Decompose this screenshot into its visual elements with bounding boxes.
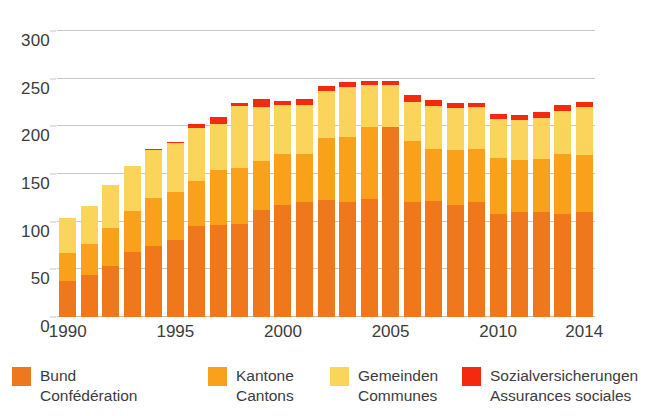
bar-segment-kantone [576, 155, 593, 212]
bar-segment-gemeinden [576, 107, 593, 155]
bar-segment-bund [339, 202, 356, 317]
bar-segment-bund [490, 214, 507, 317]
bar-2006 [404, 95, 421, 317]
y-tick-mark-150 [50, 174, 56, 175]
bar-segment-gemeinden [231, 106, 248, 168]
legend-item-bund[interactable]: BundConfédération [12, 366, 137, 406]
bar-segment-kantone [468, 149, 485, 201]
bar-segment-bund [102, 266, 119, 317]
bar-segment-sozialversicherungen [296, 99, 313, 106]
bar-segment-bund [188, 226, 205, 317]
bar-1991 [81, 206, 98, 317]
bar-segment-kantone [533, 159, 550, 212]
bar-2004 [361, 81, 378, 317]
legend-label-fr: Confédération [40, 386, 137, 406]
bar-segment-bund [554, 214, 571, 317]
bar-segment-bund [274, 205, 291, 317]
legend-swatch-icon [12, 367, 31, 386]
bar-2003 [339, 82, 356, 317]
legend-label-de: Gemeinden [358, 366, 438, 386]
bar-1994 [145, 149, 162, 317]
bar-1990 [59, 218, 76, 317]
legend-label-de: Sozialversicherungen [490, 366, 638, 386]
bar-segment-kantone [554, 154, 571, 214]
bar-segment-kantone [318, 138, 335, 200]
bar-segment-gemeinden [102, 185, 119, 228]
bar-segment-sozialversicherungen [404, 95, 421, 102]
bar-1999 [253, 99, 270, 317]
bar-segment-gemeinden [447, 108, 464, 150]
x-tick-label-2000: 2000 [264, 322, 302, 342]
bar-2009 [468, 103, 485, 317]
legend-label-de: Kantone [236, 366, 294, 386]
y-tick-mark-0 [50, 317, 56, 318]
bar-segment-gemeinden [296, 105, 313, 154]
bar-segment-gemeinden [253, 107, 270, 160]
bar-segment-bund [576, 212, 593, 317]
bar-segment-kantone [124, 211, 141, 252]
bar-segment-sozialversicherungen [425, 100, 442, 107]
bar-2013 [554, 105, 571, 317]
legend-label: KantoneCantons [236, 366, 294, 406]
bar-2012 [533, 112, 550, 317]
bars-container [57, 31, 595, 317]
legend-item-kantone[interactable]: KantoneCantons [208, 366, 294, 406]
bar-segment-gemeinden [339, 87, 356, 137]
bar-2008 [447, 103, 464, 317]
y-axis: 050100150200250300 [0, 31, 50, 317]
bar-2011 [511, 115, 528, 317]
bar-segment-kantone [188, 181, 205, 227]
bar-segment-kantone [231, 168, 248, 223]
bar-1997 [210, 117, 227, 317]
bar-segment-bund [167, 240, 184, 317]
legend-swatch-icon [462, 367, 481, 386]
legend-label: SozialversicherungenAssurances sociales [490, 366, 638, 406]
bar-segment-gemeinden [490, 119, 507, 158]
x-tick-label-1990: 1990 [49, 322, 87, 342]
bar-segment-bund [447, 205, 464, 317]
bar-2005 [382, 81, 399, 317]
legend-label-fr: Communes [358, 386, 438, 406]
bar-segment-kantone [339, 137, 356, 202]
bar-segment-bund [210, 225, 227, 317]
bar-segment-gemeinden [274, 105, 291, 154]
legend-label-de: Bund [40, 366, 137, 386]
legend-swatch-icon [330, 367, 349, 386]
bar-segment-kantone [210, 170, 227, 225]
bar-segment-gemeinden [145, 150, 162, 198]
x-tick-label-2010: 2010 [479, 322, 517, 342]
bar-segment-bund [511, 212, 528, 317]
bar-2002 [318, 86, 335, 317]
bar-2014 [576, 102, 593, 317]
legend-item-gemeinden[interactable]: GemeindenCommunes [330, 366, 438, 406]
x-axis: 199019952000200520102014 [57, 322, 595, 350]
bar-segment-bund [59, 281, 76, 317]
y-tick-mark-300 [50, 31, 56, 32]
bar-segment-bund [81, 275, 98, 317]
bar-segment-bund [124, 252, 141, 317]
legend-label-fr: Cantons [236, 386, 294, 406]
bar-segment-gemeinden [188, 128, 205, 180]
legend-label: BundConfédération [40, 366, 137, 406]
bar-segment-kantone [361, 127, 378, 199]
x-tick-label-1995: 1995 [156, 322, 194, 342]
bar-2007 [425, 100, 442, 317]
x-tick-label-2014: 2014 [565, 322, 603, 342]
bar-segment-bund [361, 199, 378, 317]
bar-segment-kantone [511, 160, 528, 212]
bar-segment-kantone [274, 154, 291, 205]
legend-item-sozialversicherungen[interactable]: SozialversicherungenAssurances sociales [462, 366, 638, 406]
x-tick-label-2005: 2005 [372, 322, 410, 342]
bar-segment-kantone [490, 158, 507, 214]
bar-segment-kantone [59, 253, 76, 281]
bar-segment-gemeinden [425, 106, 442, 149]
bar-segment-kantone [404, 141, 421, 202]
bar-2000 [274, 101, 291, 317]
bar-segment-kantone [447, 150, 464, 204]
y-tick-mark-100 [50, 221, 56, 222]
bar-2001 [296, 99, 313, 317]
bar-segment-bund [253, 210, 270, 317]
bar-segment-bund [318, 200, 335, 317]
bar-segment-gemeinden [468, 107, 485, 149]
bar-segment-bund [382, 127, 399, 317]
